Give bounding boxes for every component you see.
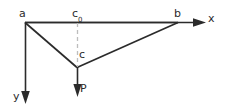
- node-label-c0: c0: [72, 8, 83, 22]
- x-axis-arrowhead-icon: [193, 18, 206, 27]
- node-label-c0-subscript: 0: [78, 16, 82, 24]
- member-c-b: [77, 23, 178, 68]
- y-axis-arrowhead-icon: [21, 91, 30, 104]
- diagram-canvas: [0, 0, 226, 111]
- member-a-c: [25, 23, 77, 68]
- node-label-c: c: [79, 49, 85, 60]
- axis-label-x: x: [208, 13, 215, 24]
- node-label-b: b: [174, 8, 181, 19]
- y-axis-group: [21, 22, 30, 104]
- node-label-a: a: [19, 8, 26, 19]
- engineering-diagram: a c0 b x c y P: [0, 0, 226, 111]
- load-label-P: P: [80, 83, 87, 94]
- axis-label-y: y: [13, 91, 20, 102]
